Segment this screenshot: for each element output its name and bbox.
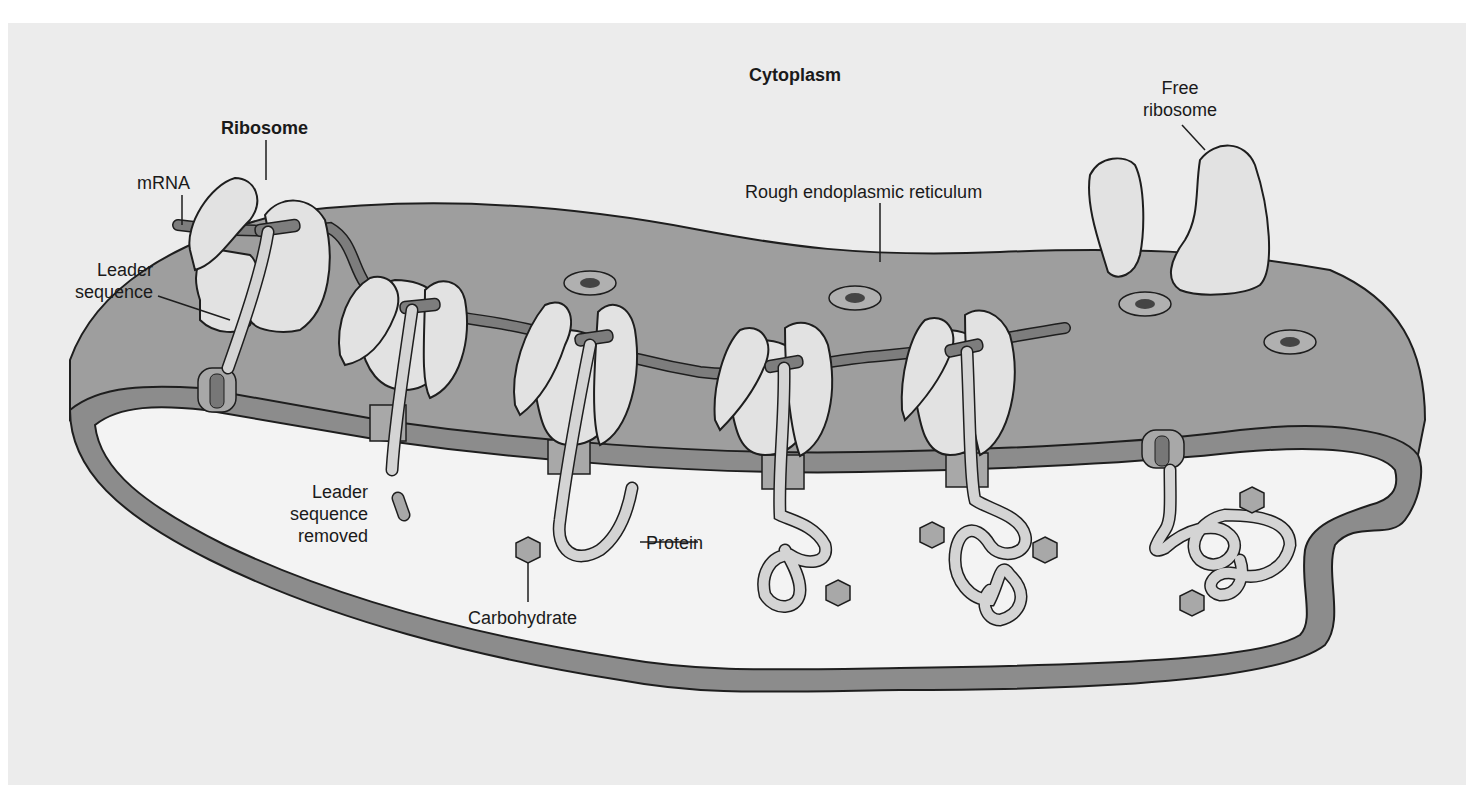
label-lsr-line2: sequence — [270, 503, 368, 525]
label-cytoplasm: Cytoplasm — [735, 64, 855, 86]
carbohydrate-4 — [1033, 537, 1057, 563]
label-carbohydrate: Carbohydrate — [468, 607, 577, 629]
label-leader-sequence-removed: Leader sequence removed — [270, 481, 368, 547]
carbohydrate-2 — [826, 580, 850, 606]
free-ribosome — [1089, 146, 1269, 295]
label-leader-sequence-line2: sequence — [60, 281, 153, 303]
carbohydrate-1 — [516, 537, 540, 563]
label-mrna: mRNA — [137, 172, 190, 194]
label-protein: Protein — [646, 532, 703, 554]
carbohydrate-6 — [1180, 590, 1204, 616]
label-free-ribosome-line2: ribosome — [1125, 99, 1235, 121]
label-free-ribosome-line1: Free — [1125, 77, 1235, 99]
label-rough-er: Rough endoplasmic reticulum — [745, 181, 982, 203]
label-leader-sequence-line1: Leader — [60, 259, 153, 281]
carbohydrate-3 — [920, 522, 944, 548]
carbohydrate-5 — [1240, 487, 1264, 513]
label-leader-sequence: Leader sequence — [60, 259, 153, 303]
label-free-ribosome: Free ribosome — [1125, 77, 1235, 121]
label-lsr-line3: removed — [270, 525, 368, 547]
label-lsr-line1: Leader — [270, 481, 368, 503]
label-ribosome: Ribosome — [221, 117, 308, 139]
